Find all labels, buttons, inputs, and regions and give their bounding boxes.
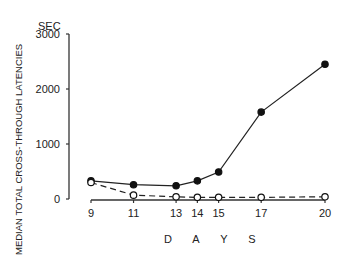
x-tick-label: 14 bbox=[191, 207, 203, 219]
x-tick-label: 15 bbox=[213, 207, 225, 219]
svg-text:A: A bbox=[192, 233, 200, 245]
svg-text:Y: Y bbox=[220, 233, 228, 245]
data-point bbox=[215, 194, 221, 200]
data-point bbox=[130, 192, 136, 198]
x-tick-label: 13 bbox=[170, 207, 182, 219]
x-tick-label: 9 bbox=[88, 207, 94, 219]
data-point bbox=[258, 194, 264, 200]
data-point bbox=[194, 194, 200, 200]
data-point bbox=[173, 194, 179, 200]
y-tick-label: 0 bbox=[54, 193, 60, 205]
open-circles-dashed-line bbox=[91, 183, 325, 198]
svg-text:D: D bbox=[164, 233, 172, 245]
data-point bbox=[215, 169, 221, 175]
svg-text:S: S bbox=[248, 233, 255, 245]
x-tick-label: 20 bbox=[319, 207, 331, 219]
data-point bbox=[322, 61, 328, 67]
x-axis-title: DAYS bbox=[164, 233, 256, 245]
series bbox=[88, 61, 328, 201]
data-point bbox=[130, 182, 136, 188]
data-point bbox=[88, 179, 94, 185]
unit-label: SEC bbox=[38, 20, 61, 32]
chart: 0100020003000 9111314151720 SEC MEDIAN T… bbox=[0, 0, 346, 255]
y-axis-title: MEDIAN TOTAL CROSS-THROUGH LATENCIES bbox=[13, 44, 24, 255]
data-point bbox=[322, 194, 328, 200]
data-point bbox=[258, 109, 264, 115]
filled-circles-solid-line bbox=[91, 64, 325, 186]
y-tick-label: 1000 bbox=[36, 138, 60, 150]
data-point bbox=[173, 183, 179, 189]
x-tick-label: 11 bbox=[128, 207, 139, 219]
x-tick-label: 17 bbox=[255, 207, 267, 219]
data-point bbox=[194, 178, 200, 184]
axes: 0100020003000 9111314151720 bbox=[36, 28, 332, 219]
y-tick-label: 2000 bbox=[36, 83, 60, 95]
